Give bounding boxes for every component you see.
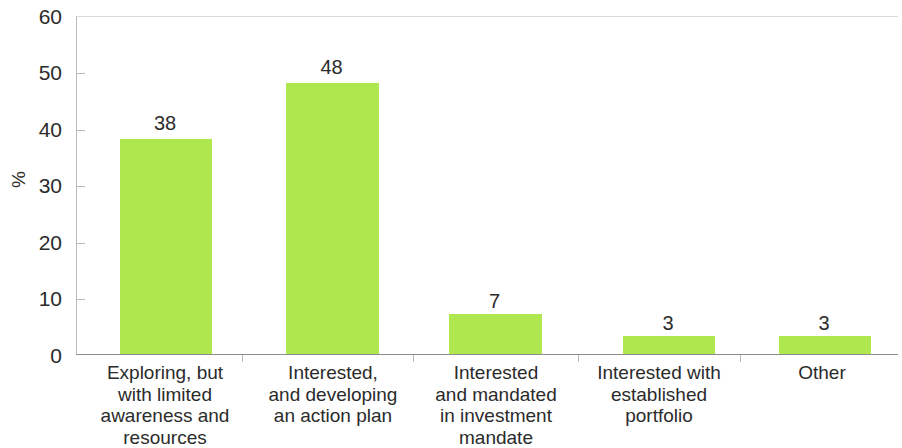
x-axis-label-line: and developing — [248, 384, 418, 406]
bar-value-label-4: 3 — [622, 313, 714, 333]
y-tick-50 — [77, 73, 85, 74]
x-tick-boundary-2 — [413, 355, 414, 362]
x-axis-label-interested-developing-action-plan: Interested, and developing an action pla… — [248, 362, 418, 427]
y-axis-title: % — [9, 150, 28, 210]
bar-value-label-5: 3 — [778, 313, 870, 333]
x-axis-label-line: Exploring, but — [80, 362, 250, 384]
x-axis-label-line: established — [581, 384, 737, 406]
y-tick-label-10: 10 — [0, 288, 62, 309]
x-tick-boundary-4 — [740, 355, 741, 362]
x-axis-label-other: Other — [744, 362, 900, 384]
bar-exploring-limited-awareness[interactable] — [120, 139, 212, 354]
y-tick-label-50: 50 — [0, 62, 62, 83]
x-axis-label-line: with limited — [80, 384, 250, 406]
y-tick-10 — [77, 299, 85, 300]
bar-value-label-1: 38 — [119, 113, 211, 133]
y-tick-label-60: 60 — [0, 6, 62, 27]
x-axis-label-line: Other — [744, 362, 900, 384]
y-tick-label-0: 0 — [0, 345, 62, 366]
x-axis-label-line: portfolio — [581, 405, 737, 427]
x-tick-boundary-3 — [578, 355, 579, 362]
x-axis-label-line: Interested with — [581, 362, 737, 384]
y-tick-40 — [77, 130, 85, 131]
x-axis-label-line: awareness and — [80, 405, 250, 427]
x-axis-label-line: mandate — [415, 427, 577, 448]
bar-interested-developing-action-plan[interactable] — [286, 83, 379, 354]
y-tick-label-20: 20 — [0, 232, 62, 253]
x-axis-label-line: an action plan — [248, 405, 418, 427]
x-axis-label-exploring-limited-awareness: Exploring, but with limited awareness an… — [80, 362, 250, 448]
x-axis-label-line: Interested, — [248, 362, 418, 384]
bar-interested-mandated-investment[interactable] — [449, 314, 542, 354]
y-tick-20 — [77, 243, 85, 244]
x-axis-label-interested-established-portfolio: Interested with established portfolio — [581, 362, 737, 427]
x-axis-label-line: and mandated — [415, 384, 577, 406]
y-tick-label-40: 40 — [0, 119, 62, 140]
bar-other[interactable] — [779, 336, 871, 354]
x-axis-label-interested-mandated-investment: Interested and mandated in investment ma… — [415, 362, 577, 448]
x-tick-boundary-1 — [242, 355, 243, 362]
bar-interested-established-portfolio[interactable] — [623, 336, 715, 354]
bar-value-label-2: 48 — [285, 57, 378, 77]
x-axis-label-line: in investment — [415, 405, 577, 427]
y-tick-30 — [77, 186, 85, 187]
bar-value-label-3: 7 — [448, 291, 541, 311]
x-axis-label-line: Interested — [415, 362, 577, 384]
x-axis-label-line: resources — [80, 427, 250, 448]
bar-chart: 60 50 40 30 20 10 0 % 38 48 7 3 3 Explor… — [0, 0, 902, 448]
